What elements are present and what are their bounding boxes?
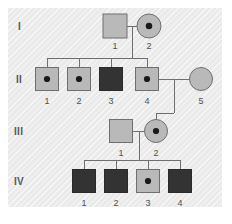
individual-number-IV-2: 2 [106,198,126,208]
individual-number-II-2: 2 [69,96,89,106]
individual-number-I-2: 2 [139,41,159,51]
individual-number-II-1: 1 [37,96,57,106]
generation-label-IV: IV [14,176,24,187]
carrier-dot-icon-II-4 [144,76,150,82]
individual-number-I-1: 1 [105,41,125,51]
carrier-dot-icon-IV-3 [145,178,151,184]
individual-number-II-3: 3 [101,96,121,106]
symbol-IV-1-male-affected [73,170,96,193]
symbol-II-5-female-unaffected [190,68,213,91]
individual-number-IV-3: 3 [138,198,158,208]
individual-number-II-4: 4 [137,96,157,106]
pedigree-figure: IIIIIIIV 1212345121234 [0,0,232,224]
carrier-dot-icon-III-2 [153,128,159,134]
carrier-dot-icon-II-1 [44,76,50,82]
symbol-I-1-male-unaffected [103,14,127,38]
individual-number-IV-1: 1 [74,198,94,208]
individual-number-III-2: 2 [146,148,166,158]
individual-number-IV-4: 4 [170,198,190,208]
symbol-II-3-male-affected [100,68,123,91]
symbol-IV-4-male-affected [169,170,192,193]
carrier-dot-icon-I-2 [146,23,152,29]
generation-label-III: III [14,126,23,137]
carrier-dot-icon-II-2 [76,76,82,82]
individual-number-III-1: 1 [111,148,131,158]
individual-number-II-5: 5 [191,96,211,106]
symbol-III-1-male-unaffected [110,120,133,143]
symbol-IV-2-male-affected [105,170,128,193]
generation-label-II: II [16,74,22,85]
pedigree-graphics [0,0,232,224]
generation-label-I: I [18,21,21,32]
